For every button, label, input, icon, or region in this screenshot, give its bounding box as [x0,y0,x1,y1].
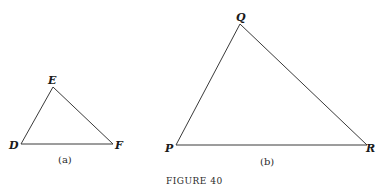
triangle-b-outline [176,24,367,145]
triangle-a-outline [21,87,113,144]
vertex-label-e: E [47,74,57,87]
sublabel-b: (b) [260,156,274,167]
triangle-def: D E F (a) [8,74,124,165]
vertex-label-f: F [114,139,124,152]
sublabel-a: (a) [58,154,72,165]
figure-40: D E F (a) P Q R (b) FIGURE 40 [0,0,386,188]
vertex-label-q: Q [236,11,246,24]
vertex-label-r: R [365,142,375,155]
figure-caption: FIGURE 40 [166,176,223,186]
vertex-label-p: P [164,142,174,155]
vertex-label-d: D [8,139,19,152]
triangle-pqr: P Q R (b) [164,11,375,167]
